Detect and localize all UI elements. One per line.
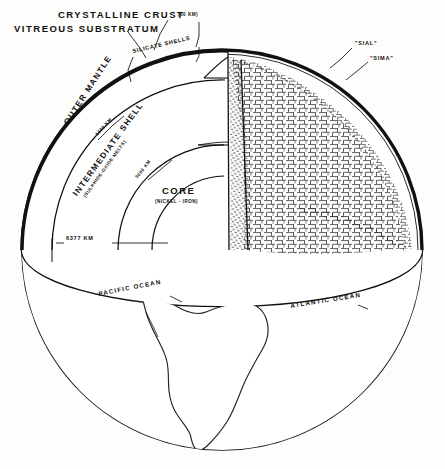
leader-crust-depth <box>196 22 199 47</box>
earth-diagram-svg <box>0 0 445 469</box>
leader-sima <box>346 62 368 80</box>
upper-hemisphere-cutaway <box>22 50 422 306</box>
leader-crystalline-crust <box>154 20 168 50</box>
cut-quarter-face <box>22 51 228 250</box>
leader-sial <box>330 48 352 68</box>
earth-cutaway-figure: CRYSTALLINE CRUST (60 KM) VITREOUS SUBST… <box>0 0 445 469</box>
leader-vitreous <box>128 32 146 58</box>
